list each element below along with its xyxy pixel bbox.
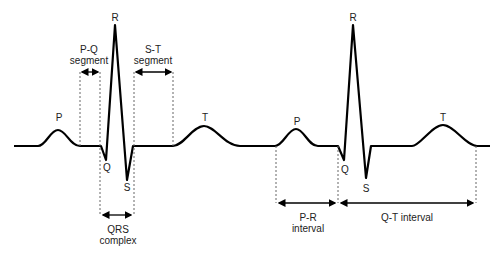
pr-label-line1: P-R bbox=[292, 212, 324, 223]
wave-label-s2: S bbox=[363, 183, 370, 194]
qrs-label-line2: complex bbox=[99, 235, 136, 246]
wave-label-r1: R bbox=[111, 12, 118, 23]
pr-label-line2: interval bbox=[292, 223, 324, 234]
qrs-label-line1: QRS bbox=[99, 224, 136, 235]
st-segment-label: S-T segment bbox=[134, 44, 172, 66]
wave-label-t2: T bbox=[440, 112, 446, 123]
wave-label-p2: P bbox=[294, 116, 301, 127]
wave-label-q2: Q bbox=[341, 164, 349, 175]
wave-label-p1: P bbox=[56, 112, 63, 123]
wave-label-t1: T bbox=[202, 112, 208, 123]
qt-interval-label: Q-T interval bbox=[381, 212, 433, 223]
pq-label-line1: P-Q bbox=[70, 44, 108, 55]
wave-label-q1: Q bbox=[103, 162, 111, 173]
wave-label-r2: R bbox=[349, 12, 356, 23]
st-label-line2: segment bbox=[134, 55, 172, 66]
st-label-line1: S-T bbox=[134, 44, 172, 55]
pq-label-line2: segment bbox=[70, 55, 108, 66]
pr-interval-label: P-R interval bbox=[292, 212, 324, 234]
qrs-complex-label: QRS complex bbox=[99, 224, 136, 246]
pq-segment-label: P-Q segment bbox=[70, 44, 108, 66]
wave-label-s1: S bbox=[124, 182, 131, 193]
